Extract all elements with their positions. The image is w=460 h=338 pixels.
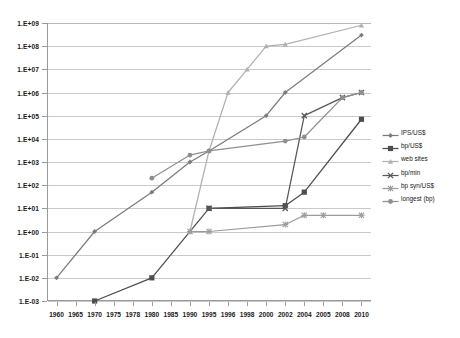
y-axis-tick-label: 1.E+09 (17, 20, 39, 27)
y-axis-tick-label: 1.E+00 (17, 228, 39, 235)
y-axis: 1.E+091.E+081.E+071.E+061.E+051.E+041.E+… (0, 0, 47, 324)
series-bp-min (206, 90, 364, 211)
series-bp-us (92, 117, 364, 304)
y-axis-tick-label: 1.E-01 (19, 251, 39, 258)
x-axis-tick-mark (95, 302, 96, 306)
legend-item-label: IPS/US$ (401, 129, 426, 136)
x-axis-tick-mark (133, 302, 134, 306)
x-axis-tick-label: 2005 (316, 311, 331, 318)
legend-marker-icon (382, 193, 399, 204)
x-axis: 1960196519701975197819801985199019951996… (47, 302, 371, 326)
y-axis-tick-label: 1.E-02 (19, 274, 39, 281)
y-axis-tick-label: 1.E+08 (17, 43, 39, 50)
y-axis-tick-label: 1.E+05 (17, 112, 39, 119)
y-axis-tick-label: 1.E+01 (17, 205, 39, 212)
legend-item-bp-syn-us[interactable]: bp syn/US$ (382, 179, 460, 192)
x-axis-tick-label: 2004 (297, 311, 312, 318)
x-axis-tick-mark (171, 302, 172, 306)
x-axis-tick-label: 1970 (87, 311, 102, 318)
data-point-marker (149, 176, 154, 181)
y-axis-tick-label: 1.E+04 (17, 135, 39, 142)
legend-item-longest-bp[interactable]: longest (bp) (382, 192, 460, 205)
x-axis-tick-mark (247, 302, 248, 306)
series-layer (47, 23, 371, 301)
x-axis-tick-label: 1996 (221, 311, 236, 318)
x-axis-tick-label: 1960 (49, 311, 64, 318)
series-line (209, 93, 361, 209)
x-axis-tick-mark (228, 302, 229, 306)
x-axis-tick-mark (209, 302, 210, 306)
legend-marker-icon (382, 167, 399, 178)
data-point-marker (282, 222, 288, 228)
series-ips-us (54, 33, 364, 281)
legend-item-label: web sites (401, 155, 428, 162)
x-axis-tick-mark (152, 302, 153, 306)
x-axis-tick-mark (76, 302, 77, 306)
data-point-marker (301, 212, 307, 218)
series-line (95, 119, 362, 301)
series-web-sites (187, 23, 364, 234)
legend-item-label: longest (bp) (401, 195, 435, 202)
x-axis-tick-label: 1978 (125, 311, 140, 318)
legend-item-label: bp/US$ (401, 142, 422, 149)
data-point-marker (187, 229, 193, 235)
x-axis-tick-label: 2002 (278, 311, 293, 318)
x-axis-tick-mark (114, 302, 115, 306)
chart-container: 1.E+091.E+081.E+071.E+061.E+051.E+041.E+… (0, 0, 460, 338)
legend-item-label: bp syn/US$ (401, 182, 434, 189)
legend-marker-icon (382, 127, 399, 138)
x-axis-tick-mark (342, 302, 343, 306)
data-point-marker (206, 229, 212, 235)
data-point-marker (302, 135, 307, 140)
data-point-marker (207, 149, 212, 154)
x-axis-tick-label: 2010 (354, 311, 369, 318)
data-point-marker (388, 185, 394, 191)
data-point-marker (388, 133, 393, 138)
y-axis-tick-label: 1.E-03 (19, 298, 39, 305)
y-axis-tick-label: 1.E+02 (17, 182, 39, 189)
data-point-marker (340, 95, 345, 100)
legend-item-bp-us[interactable]: bp/US$ (382, 139, 460, 152)
legend-marker-icon (382, 140, 399, 151)
x-axis-tick-label: 1998 (240, 311, 255, 318)
x-axis-tick-label: 1980 (144, 311, 159, 318)
data-point-marker (388, 199, 393, 204)
legend-marker-icon (382, 153, 399, 164)
legend-marker-icon (382, 180, 399, 191)
x-axis-tick-mark (57, 302, 58, 306)
chart-legend: IPS/US$bp/US$web sitesbp/minbp syn/US$lo… (382, 126, 460, 205)
data-point-marker (149, 275, 154, 280)
data-point-marker (188, 153, 193, 158)
series-line (57, 35, 362, 278)
legend-item-label: bp/min (401, 169, 420, 176)
y-axis-tick-label: 1.E+03 (17, 159, 39, 166)
x-axis-tick-mark (304, 302, 305, 306)
series-line (152, 93, 362, 179)
legend-item-ips-us[interactable]: IPS/US$ (382, 126, 460, 139)
data-point-marker (359, 117, 364, 122)
data-point-marker (320, 212, 326, 218)
x-axis-tick-mark (323, 302, 324, 306)
x-axis-tick-label: 1965 (68, 311, 83, 318)
data-point-marker (283, 139, 288, 144)
y-axis-tick-label: 1.E+07 (17, 66, 39, 73)
x-axis-tick-label: 1985 (164, 311, 179, 318)
x-axis-tick-mark (266, 302, 267, 306)
y-axis-tick-label: 1.E+06 (17, 89, 39, 96)
x-axis-tick-label: 2000 (259, 311, 274, 318)
series-longest-bp (149, 90, 363, 180)
series-bp-syn-us (187, 212, 365, 234)
legend-item-web-sites[interactable]: web sites (382, 152, 460, 165)
data-point-marker (302, 190, 307, 195)
series-line (190, 215, 362, 231)
x-axis-tick-label: 2008 (335, 311, 350, 318)
x-axis-tick-mark (361, 302, 362, 306)
x-axis-tick-mark (190, 302, 191, 306)
data-point-marker (359, 23, 364, 28)
data-point-marker (359, 90, 364, 95)
legend-item-bp-min[interactable]: bp/min (382, 166, 460, 179)
series-line (190, 25, 362, 231)
x-axis-tick-mark (285, 302, 286, 306)
x-axis-tick-label: 1995 (202, 311, 217, 318)
data-point-marker (358, 212, 364, 218)
